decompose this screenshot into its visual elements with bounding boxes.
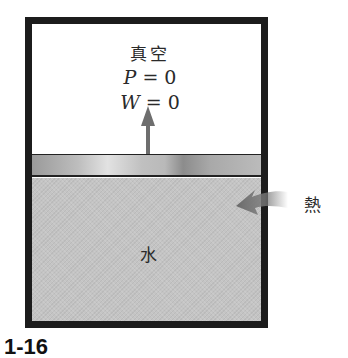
piston-up-arrow-icon bbox=[141, 106, 155, 154]
water-label: 水 bbox=[133, 241, 163, 266]
vacuum-label: 真空 bbox=[120, 40, 180, 65]
work-value: = 0 bbox=[140, 91, 180, 113]
figure-number: 1-16 bbox=[4, 334, 48, 358]
work-symbol: W bbox=[120, 91, 140, 113]
pressure-symbol: P bbox=[124, 66, 137, 88]
heat-arrow-icon bbox=[236, 190, 288, 215]
pressure-value: = 0 bbox=[136, 66, 176, 88]
pressure-equation: P = 0 bbox=[118, 66, 182, 88]
work-equation: W = 0 bbox=[118, 91, 182, 113]
heat-label: 熱 bbox=[300, 191, 324, 216]
